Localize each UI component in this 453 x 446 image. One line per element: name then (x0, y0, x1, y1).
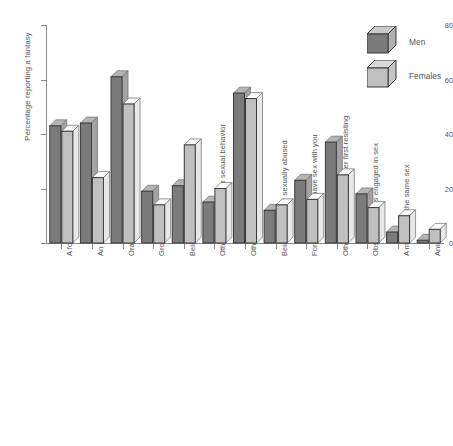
legend-label-females: Females (409, 71, 441, 81)
bar-females (429, 223, 446, 243)
bar-females (215, 183, 232, 244)
bar-females (154, 199, 171, 243)
legend-swatch-females-icon (367, 60, 409, 94)
bar-females (123, 98, 140, 243)
bar-females (307, 193, 324, 243)
bar-females (246, 93, 263, 243)
bar-females (92, 172, 109, 243)
bar-females (62, 125, 79, 243)
legend-label-men: Men (409, 37, 425, 47)
bar-females (276, 199, 293, 243)
bar-females (368, 202, 385, 243)
bar-females (184, 139, 201, 243)
bar-chart: Percentage reporting a fantasy 020406080… (0, 0, 453, 446)
bar-females (399, 210, 416, 243)
bar-females (337, 169, 354, 243)
legend-swatch-men-icon (367, 26, 409, 60)
